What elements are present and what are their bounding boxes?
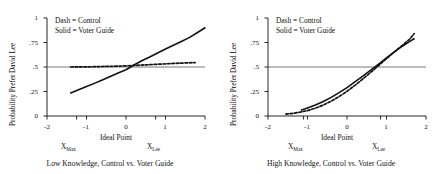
chart-panel-high-knowledge: Probability Prefer David Lee 1 .75 .5 .2… (221, 0, 441, 174)
legend-entry-solid-voterguide-left: Solid = Voter Guide (55, 27, 114, 34)
x-tick-label-left-2: 2 (196, 124, 214, 131)
x-tick-label-left-0: 0 (117, 124, 135, 131)
chart-panel-low-knowledge: Probability Prefer David Lee 1 .75 .5 .2… (0, 0, 220, 174)
x-axis-title-left: Ideal Point (86, 134, 146, 141)
y-tick-label-right-075: .75 (245, 40, 259, 47)
annotation-x-max-left: XMax (61, 143, 76, 153)
x-axis-title-right: Ideal Point (307, 134, 367, 141)
x-tick-label-left-1: 1 (156, 124, 174, 131)
legend-entry-dash-control-right: Dash = Control (276, 17, 322, 24)
y-axis-title-left: Probability Prefer David Lee (9, 43, 17, 126)
annotation-x-max-left-sub: Max (66, 146, 76, 152)
annotation-x-lee-left-sub: Lee (152, 146, 160, 152)
y-tick-label-left-1: 1 (24, 15, 38, 22)
x-tick-label-right-0: 0 (338, 124, 356, 131)
y-tick-label-right-0: 0 (245, 113, 259, 120)
annotation-x-lee-right: XLee (372, 143, 385, 153)
y-tick-label-left-025: .25 (24, 89, 38, 96)
x-tick-label-right-2: 2 (417, 124, 435, 131)
x-tick-label-left-m2: -2 (38, 124, 56, 131)
y-tick-label-right-1: 1 (245, 15, 259, 22)
annotation-x-max-right-sub: Max (293, 146, 303, 152)
legend-entry-solid-voterguide-right: Solid = Voter Guide (276, 27, 335, 34)
y-tick-label-left-05: .5 (24, 64, 38, 71)
x-tick-label-right-m2: -2 (259, 124, 277, 131)
annotation-x-lee-right-sub: Lee (377, 146, 385, 152)
y-tick-label-right-05: .5 (245, 64, 259, 71)
y-tick-label-left-075: .75 (24, 40, 38, 47)
panel-caption-left: Low Knowledge, Control vs. Voter Guide (10, 160, 210, 168)
annotation-x-lee-left: XLee (147, 143, 160, 153)
annotation-x-max-right: XMax (288, 143, 303, 153)
x-tick-label-left-m1: -1 (77, 124, 95, 131)
y-tick-label-left-0: 0 (24, 113, 38, 120)
y-tick-label-right-025: .25 (245, 89, 259, 96)
series-line-right-control (286, 34, 414, 114)
panel-caption-right: High Knowledge, Control vs. Voter Guide (231, 160, 431, 168)
figure-two-panel-chart: Probability Prefer David Lee 1 .75 .5 .2… (0, 0, 441, 174)
y-axis-title-right: Probability Prefer David Lee (230, 43, 238, 126)
legend-entry-dash-control-left: Dash = Control (55, 17, 101, 24)
series-line-left-voter-guide (71, 28, 205, 93)
x-tick-label-right-1: 1 (377, 124, 395, 131)
x-tick-label-right-m1: -1 (298, 124, 316, 131)
